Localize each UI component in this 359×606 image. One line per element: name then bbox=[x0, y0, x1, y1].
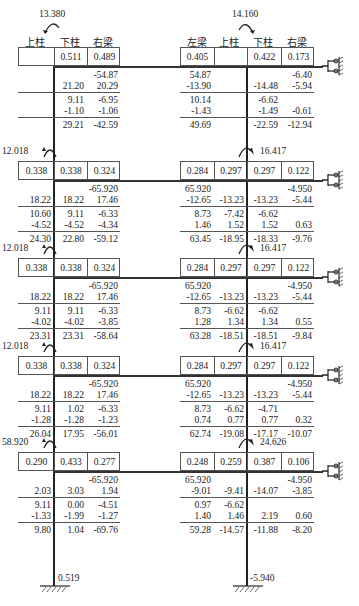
left-distribution-factors: 0.5110.489 bbox=[18, 47, 120, 66]
sliding-support-icon bbox=[322, 366, 344, 386]
right-moment-value: -9.01 bbox=[180, 486, 211, 497]
right-moment-value: 1.46 bbox=[180, 220, 211, 231]
distribution-factor: 0.422 bbox=[247, 48, 281, 67]
row-divider bbox=[180, 522, 314, 523]
right-moment-value: 0.77 bbox=[246, 415, 278, 426]
right-moment-value: 1.34 bbox=[246, 317, 278, 328]
right-moment-value: -14.48 bbox=[246, 81, 278, 92]
right-moment-value: -4.950 bbox=[280, 281, 312, 292]
right-moment-value: -7.42 bbox=[213, 209, 244, 220]
left-moment-value: -3.85 bbox=[86, 317, 118, 328]
distribution-factor: 0.248 bbox=[181, 453, 214, 472]
fixed-support-right-icon bbox=[233, 585, 263, 593]
left-moment-value: 9.11 bbox=[18, 500, 51, 511]
left-moment-value: 9.11 bbox=[18, 306, 51, 317]
left-moment-value: -6.95 bbox=[86, 95, 118, 106]
distribution-factor: 0.122 bbox=[281, 357, 315, 376]
left-moment-value: -1.33 bbox=[18, 511, 51, 522]
distribution-factor: 0.338 bbox=[54, 357, 87, 376]
left-moment-value: 17.46 bbox=[86, 292, 118, 303]
top-left-node-moment: 13.380 bbox=[39, 9, 65, 19]
left-moment-value: -6.33 bbox=[86, 209, 118, 220]
distribution-factor: 0.297 bbox=[247, 357, 281, 376]
distribution-factor: 0.297 bbox=[214, 259, 247, 278]
sliding-support-icon bbox=[322, 57, 344, 77]
right-node-moment: 16.417 bbox=[260, 146, 286, 156]
left-moment-value: -4.02 bbox=[18, 317, 51, 328]
left-moment-value: -4.52 bbox=[53, 220, 84, 231]
distribution-factor: 0.297 bbox=[214, 357, 247, 376]
right-moment-value: -5.94 bbox=[280, 81, 312, 92]
moment-arrow-icon bbox=[38, 340, 58, 354]
beam bbox=[53, 66, 323, 68]
distribution-factor: 0.173 bbox=[281, 48, 315, 67]
distribution-factor: 0.338 bbox=[19, 162, 54, 181]
left-moment-value: -65.920 bbox=[86, 475, 118, 486]
distribution-factor: 0.489 bbox=[87, 48, 121, 67]
right-moment-value: 8.73 bbox=[180, 306, 211, 317]
row-divider bbox=[18, 426, 120, 427]
beam bbox=[53, 180, 323, 182]
right-moment-value: -6.62 bbox=[246, 95, 278, 106]
right-moment-value: -13.23 bbox=[246, 390, 278, 401]
right-moment-value: -11.88 bbox=[246, 525, 278, 536]
right-moment-value: 49.69 bbox=[180, 120, 211, 131]
right-moment-value: -12.65 bbox=[180, 390, 211, 401]
right-moment-value: 65.920 bbox=[180, 475, 211, 486]
right-moment-value: 59.28 bbox=[180, 525, 211, 536]
right-moment-value: -6.62 bbox=[246, 306, 278, 317]
beam bbox=[53, 277, 323, 279]
distribution-factor: 0.284 bbox=[181, 162, 214, 181]
distribution-factor: 0.387 bbox=[247, 453, 281, 472]
row-divider bbox=[18, 328, 120, 329]
row-divider bbox=[180, 328, 314, 329]
left-moment-value: 29.21 bbox=[53, 120, 84, 131]
left-moment-value: 3.03 bbox=[53, 486, 84, 497]
left-moment-value: 9.11 bbox=[53, 95, 84, 106]
left-moment-value: -65.920 bbox=[86, 184, 118, 195]
left-moment-value: -4.51 bbox=[86, 500, 118, 511]
right-moment-value: -14.57 bbox=[213, 525, 244, 536]
left-moment-value: -1.28 bbox=[18, 415, 51, 426]
left-node-moment: 58.920 bbox=[2, 437, 28, 447]
right-moment-value: 54.87 bbox=[180, 70, 211, 81]
right-moment-value: -13.23 bbox=[213, 292, 244, 303]
right-moment-value: -1.43 bbox=[180, 106, 211, 117]
left-moment-value: 9.80 bbox=[18, 525, 51, 536]
right-distribution-factors: 0.2840.2970.2970.122 bbox=[180, 356, 314, 375]
right-distribution-factors: 0.4050.4220.173 bbox=[180, 47, 314, 66]
distribution-factor: 0.338 bbox=[19, 357, 54, 376]
right-moment-value: 8.73 bbox=[180, 404, 211, 415]
right-distribution-factors: 0.2480.2590.3870.106 bbox=[180, 452, 314, 471]
base-right-moment: -5.940 bbox=[250, 573, 275, 583]
row-divider bbox=[180, 206, 314, 207]
sliding-support-icon bbox=[322, 462, 344, 482]
distribution-factor: 0.338 bbox=[19, 259, 54, 278]
left-moment-value: 18.22 bbox=[18, 195, 51, 206]
distribution-factor: 0.284 bbox=[181, 259, 214, 278]
left-moment-value: -59.12 bbox=[86, 234, 118, 245]
distribution-factor: 0.433 bbox=[54, 453, 87, 472]
right-moment-value: -12.65 bbox=[180, 292, 211, 303]
row-divider bbox=[180, 401, 314, 402]
left-moment-value: 17.46 bbox=[86, 195, 118, 206]
left-moment-value: -1.10 bbox=[53, 106, 84, 117]
right-moment-value: 63.28 bbox=[180, 331, 211, 342]
left-moment-value: -1.99 bbox=[53, 511, 84, 522]
right-moment-value: 1.52 bbox=[246, 220, 278, 231]
left-node-moment: 12.018 bbox=[2, 341, 28, 351]
moment-arrow-icon bbox=[236, 20, 256, 34]
row-divider bbox=[180, 303, 314, 304]
right-moment-value: -13.23 bbox=[213, 390, 244, 401]
right-moment-value: -5.44 bbox=[280, 292, 312, 303]
right-moment-value: -6.62 bbox=[213, 306, 244, 317]
right-moment-value: -5.44 bbox=[280, 390, 312, 401]
right-moment-value: 63.45 bbox=[180, 234, 211, 245]
row-divider bbox=[18, 92, 120, 93]
distribution-factor: 0.122 bbox=[281, 259, 315, 278]
beam bbox=[53, 375, 323, 377]
left-moment-value: -65.920 bbox=[86, 379, 118, 390]
right-moment-value: -4.950 bbox=[280, 379, 312, 390]
right-moment-value: 62.74 bbox=[180, 429, 211, 440]
right-moment-value: -13.23 bbox=[246, 195, 278, 206]
